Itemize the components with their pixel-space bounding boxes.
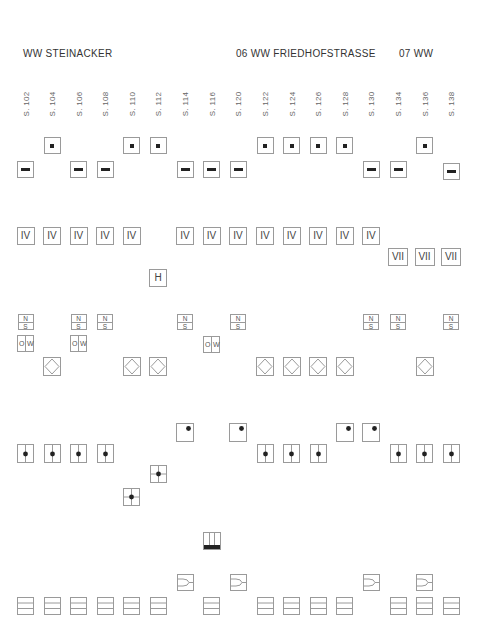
column-label: S. 130 bbox=[365, 86, 377, 122]
letter-h-label: H bbox=[149, 269, 167, 287]
column-label-text: S. 110 bbox=[127, 92, 136, 116]
three-band-icon bbox=[97, 597, 114, 615]
three-band-icon bbox=[310, 597, 327, 615]
column-label-text: S. 112 bbox=[154, 92, 163, 116]
gate-icon bbox=[416, 574, 433, 591]
gate-icon bbox=[177, 574, 194, 591]
roman-vii-label: VII bbox=[441, 248, 461, 266]
roman-iv-label: IV bbox=[336, 227, 354, 245]
dot-square-icon bbox=[310, 137, 327, 154]
column-label-text: S. 120 bbox=[234, 92, 243, 117]
diamond-in-square-icon bbox=[43, 357, 61, 376]
column-label-text: S. 114 bbox=[181, 92, 190, 116]
roman-iv-label: IV bbox=[309, 227, 327, 245]
corner-dot-square-icon bbox=[362, 423, 380, 442]
column-label: S. 120 bbox=[232, 86, 244, 122]
roman-iv-label: IV bbox=[70, 227, 88, 245]
dash-square-icon bbox=[203, 161, 220, 178]
roman-iv-label: IV bbox=[362, 227, 380, 245]
three-band-icon bbox=[443, 597, 460, 615]
split-dot-icon bbox=[257, 444, 274, 463]
roman-vii-label: VII bbox=[415, 248, 435, 266]
column-label: S. 106 bbox=[73, 86, 85, 122]
east-west-icon: OW bbox=[17, 335, 34, 352]
east-west-icon: OW bbox=[70, 335, 87, 352]
three-band-icon bbox=[283, 597, 300, 615]
column-label-text: S. 138 bbox=[447, 92, 456, 117]
north-south-icon: NS bbox=[97, 314, 113, 330]
three-band-icon bbox=[70, 597, 87, 615]
north-south-icon: NS bbox=[390, 314, 406, 330]
corner-dot-square-icon bbox=[176, 423, 194, 442]
dot-square-icon bbox=[123, 137, 140, 154]
column-label-text: S. 102 bbox=[21, 92, 30, 117]
dash-square-icon bbox=[230, 161, 247, 178]
dash-square-icon bbox=[17, 161, 34, 178]
corner-dot-square-icon bbox=[229, 423, 247, 442]
diamond-in-square-icon bbox=[256, 357, 274, 376]
roman-vii-label: VII bbox=[388, 248, 408, 266]
column-label: S. 110 bbox=[126, 86, 138, 122]
roman-iv-label: IV bbox=[96, 227, 114, 245]
split-dot-icon bbox=[443, 444, 460, 463]
dot-square-icon bbox=[416, 137, 433, 154]
east-west-icon: OW bbox=[203, 336, 220, 353]
column-label: S. 104 bbox=[46, 86, 58, 122]
cross-dot-icon bbox=[123, 488, 140, 506]
column-label: S. 134 bbox=[392, 86, 404, 122]
header-left-title: WW STEINACKER bbox=[23, 48, 112, 59]
north-south-icon: NS bbox=[230, 314, 246, 330]
split-dot-icon bbox=[97, 444, 114, 463]
split-dot-icon bbox=[44, 444, 61, 463]
three-band-icon bbox=[390, 597, 407, 615]
diamond-in-square-icon bbox=[149, 357, 167, 376]
roman-iv-label: IV bbox=[283, 227, 301, 245]
dash-square-icon bbox=[443, 163, 460, 180]
column-label: S. 112 bbox=[152, 86, 164, 122]
roman-iv-label: IV bbox=[17, 227, 35, 245]
three-band-icon bbox=[257, 597, 274, 615]
column-label: S. 124 bbox=[286, 86, 298, 122]
roman-iv-label: IV bbox=[176, 227, 194, 245]
column-label-text: S. 126 bbox=[314, 92, 323, 117]
dot-square-icon bbox=[150, 137, 167, 154]
north-south-icon: NS bbox=[363, 314, 379, 330]
dash-square-icon bbox=[97, 161, 114, 178]
north-south-icon: NS bbox=[177, 314, 193, 330]
roman-iv-label: IV bbox=[123, 227, 141, 245]
corner-dot-square-icon bbox=[336, 423, 354, 442]
column-label-text: S. 136 bbox=[420, 92, 429, 117]
three-band-icon bbox=[416, 597, 433, 615]
column-label-text: S. 104 bbox=[48, 92, 57, 117]
column-label: S. 128 bbox=[339, 86, 351, 122]
dash-square-icon bbox=[177, 161, 194, 178]
split-dot-icon bbox=[17, 444, 34, 463]
north-south-icon: NS bbox=[443, 314, 459, 330]
three-band-icon bbox=[336, 597, 353, 615]
diamond-in-square-icon bbox=[123, 357, 141, 376]
column-label: S. 102 bbox=[20, 86, 32, 122]
roman-iv-label: IV bbox=[43, 227, 61, 245]
column-label-text: S. 130 bbox=[367, 92, 376, 117]
gate-icon bbox=[230, 574, 247, 591]
dash-square-icon bbox=[70, 161, 87, 178]
column-label-text: S. 134 bbox=[394, 92, 403, 117]
building-icon bbox=[203, 532, 221, 550]
roman-iv-label: IV bbox=[229, 227, 247, 245]
column-label: S. 136 bbox=[419, 86, 431, 122]
dash-square-icon bbox=[363, 161, 380, 178]
diamond-in-square-icon bbox=[416, 357, 434, 376]
column-label-text: S. 122 bbox=[261, 92, 270, 117]
three-band-icon bbox=[17, 597, 34, 615]
roman-iv-label: IV bbox=[256, 227, 274, 245]
split-dot-icon bbox=[283, 444, 300, 463]
three-band-icon bbox=[44, 597, 61, 615]
dot-square-icon bbox=[336, 137, 353, 154]
split-dot-icon bbox=[70, 444, 87, 463]
roman-iv-label: IV bbox=[203, 227, 221, 245]
cross-dot-icon bbox=[150, 465, 167, 483]
diamond-in-square-icon bbox=[336, 357, 354, 376]
column-label-text: S. 128 bbox=[340, 92, 349, 117]
column-label-text: S. 108 bbox=[101, 92, 110, 117]
gate-icon bbox=[363, 574, 380, 591]
